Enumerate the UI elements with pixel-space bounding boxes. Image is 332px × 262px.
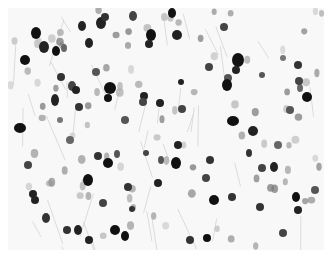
- nucleus: [279, 229, 287, 237]
- nucleus: [311, 186, 319, 194]
- nucleus: [178, 79, 184, 85]
- nucleus: [85, 236, 93, 244]
- nucleus: [99, 199, 107, 207]
- nucleus: [206, 156, 214, 164]
- nucleus: [280, 55, 286, 61]
- nucleus: [57, 73, 65, 81]
- nucleus: [292, 192, 300, 202]
- nucleus: [20, 55, 30, 65]
- nucleus: [258, 164, 266, 172]
- nucleus: [75, 103, 83, 111]
- nucleus: [78, 21, 86, 31]
- nucleus: [66, 136, 74, 144]
- nucleus: [146, 29, 156, 41]
- nucleus: [259, 72, 265, 78]
- nucleus: [174, 141, 182, 149]
- nucleus: [227, 116, 239, 126]
- nucleus: [121, 231, 129, 241]
- nucleus: [31, 27, 41, 39]
- nucleus: [274, 141, 282, 149]
- nuclei-layer: [8, 8, 324, 250]
- nucleus: [104, 82, 116, 94]
- nucleus: [203, 234, 211, 242]
- nucleus: [248, 126, 258, 136]
- nucleus: [171, 157, 181, 169]
- micrograph-image: [8, 8, 324, 250]
- nucleus: [114, 150, 120, 158]
- nucleus: [29, 190, 37, 198]
- nucleus: [110, 225, 120, 235]
- nucleus: [94, 152, 102, 160]
- nucleus: [302, 92, 312, 102]
- nucleus: [294, 61, 302, 69]
- nucleus: [24, 161, 32, 169]
- nucleus: [39, 41, 49, 53]
- nucleus: [209, 195, 219, 205]
- nucleus: [129, 206, 135, 212]
- nucleus: [228, 193, 236, 201]
- nucleus: [42, 213, 50, 223]
- nucleus: [74, 225, 82, 235]
- nucleus: [232, 66, 240, 74]
- nucleus: [295, 77, 303, 85]
- nucleus: [63, 226, 71, 234]
- nucleus: [202, 174, 210, 182]
- nucleus: [85, 38, 93, 48]
- nucleus: [104, 94, 112, 102]
- nucleus: [178, 105, 186, 113]
- nucleus: [294, 206, 302, 214]
- nucleus: [172, 30, 182, 40]
- nucleus: [145, 40, 153, 48]
- nucleus: [83, 174, 93, 186]
- nucleus: [121, 116, 129, 124]
- nucleus: [51, 94, 59, 106]
- nucleus: [139, 98, 147, 106]
- nucleus: [124, 183, 132, 191]
- nucleus: [92, 68, 100, 76]
- nucleus: [246, 149, 252, 157]
- nucleus: [14, 123, 26, 133]
- nucleus: [232, 53, 244, 67]
- nucleus: [72, 86, 80, 94]
- nucleus: [154, 179, 162, 187]
- nucleus: [101, 13, 109, 21]
- nucleus: [57, 117, 63, 123]
- nucleus: [129, 11, 137, 21]
- nucleus: [286, 106, 294, 114]
- nucleus: [156, 99, 164, 107]
- nucleus: [222, 79, 232, 91]
- nucleus: [103, 158, 113, 168]
- nucleus: [220, 23, 228, 31]
- nucleus: [61, 44, 67, 52]
- nucleus: [186, 236, 194, 244]
- nucleus: [256, 203, 264, 211]
- nucleus: [297, 84, 303, 92]
- nucleus: [143, 150, 149, 156]
- nucleus: [270, 162, 278, 172]
- nucleus: [52, 46, 60, 56]
- nucleus: [168, 8, 176, 18]
- nucleus: [158, 156, 164, 164]
- nucleus: [205, 63, 213, 71]
